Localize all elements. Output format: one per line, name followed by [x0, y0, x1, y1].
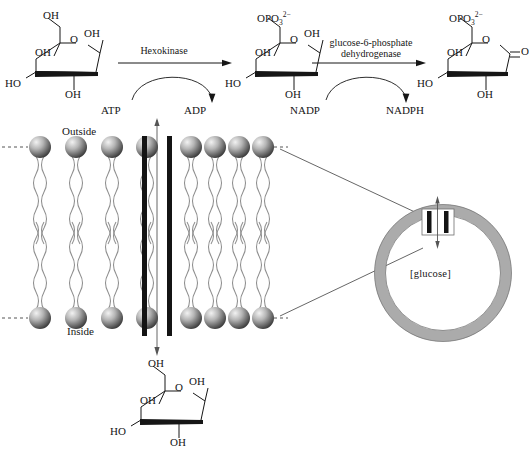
g6p-label-ring-o: O — [290, 33, 298, 45]
lactone-opo-subscript: 3 — [471, 18, 475, 27]
cofactor-label-nadph: NADPH — [386, 104, 424, 116]
enzyme-label-hexokinase: Hexokinase — [124, 45, 204, 57]
vesicle-transporter — [422, 196, 454, 249]
lactone-label-c3: OH — [477, 88, 493, 100]
vesicle-diagram — [280, 130, 526, 340]
lactone-label-c2: OH — [447, 46, 463, 58]
vesicle-transporter-bar-right — [444, 211, 449, 233]
transporter-bar-right — [167, 136, 172, 336]
g6p-opo-text: OPO — [257, 12, 279, 24]
glucose-top-label-c1: OH — [84, 27, 100, 39]
glucose-bottom-label-ring-o: O — [175, 381, 183, 393]
transporter-bar-left — [142, 136, 147, 336]
g6p-opo-subscript: 3 — [279, 18, 283, 27]
reaction-arrow-2 — [312, 58, 430, 108]
lactone-label-c6-phosphate: OPO32− — [449, 9, 483, 29]
molecule-glucose-top — [8, 4, 118, 104]
g6p-opo-superscript: 2− — [283, 10, 291, 19]
vesicle-transporter-bar-left — [427, 211, 432, 233]
glucose-bottom-label-c6: OH — [148, 357, 164, 369]
glucose-top-label-c6: OH — [43, 9, 59, 21]
lactone-label-carbonyl-o: O — [521, 45, 529, 57]
g6p-label-c2: OH — [255, 46, 271, 58]
g6p-label-c3: OH — [285, 88, 301, 100]
glucose-transporter[interactable] — [136, 118, 186, 360]
glucose-bottom-label-c3: OH — [170, 436, 186, 448]
glucose-bottom-label-c4: HO — [110, 425, 126, 437]
lactone-label-ring-o: O — [482, 33, 490, 45]
transporter-arrowhead-up — [154, 118, 159, 126]
cofactor-label-adp: ADP — [184, 104, 206, 116]
molecule-glucose-bottom — [113, 352, 223, 452]
cofactor-label-atp: ATP — [101, 104, 121, 116]
glucose-bottom-label-c2: OH — [140, 394, 156, 406]
reaction-arrow-1 — [118, 58, 236, 108]
glucose-top-label-c2: OH — [35, 46, 51, 58]
magnification-leader-lines — [280, 149, 432, 316]
glucose-top-label-ring-o: O — [70, 33, 78, 45]
g6p-label-c6-phosphate: OPO32− — [257, 9, 291, 29]
cofactor-label-nadp: NADP — [290, 104, 320, 116]
glucose-top-label-c3: OH — [65, 88, 81, 100]
lactone-opo-text: OPO — [449, 12, 471, 24]
g6p-label-c4: HO — [225, 77, 241, 89]
vesicle-interior-label: [glucose] — [410, 268, 451, 280]
vesicle-transporter-arrowhead-down — [435, 241, 439, 249]
lactone-opo-superscript: 2− — [475, 10, 483, 19]
glucose-top-label-c4: HO — [5, 77, 21, 89]
vesicle-transporter-arrowhead-up — [435, 196, 439, 204]
lactone-label-c4: HO — [417, 77, 433, 89]
glucose-bottom-label-c1: OH — [189, 375, 205, 387]
enzyme-label-g6pdh-line1: glucose-6-phosphate — [318, 37, 424, 49]
